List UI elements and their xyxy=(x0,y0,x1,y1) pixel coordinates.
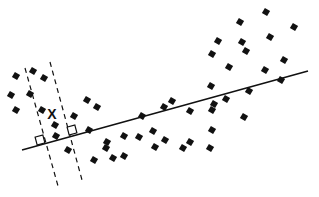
data-point xyxy=(236,18,244,26)
data-point xyxy=(151,143,159,151)
data-point xyxy=(93,103,101,111)
data-point xyxy=(161,136,169,144)
data-point xyxy=(186,138,194,146)
data-point xyxy=(7,91,15,99)
data-point xyxy=(207,82,215,90)
data-point xyxy=(64,146,72,154)
data-point xyxy=(262,8,270,16)
data-point xyxy=(120,152,128,160)
data-point xyxy=(40,74,48,82)
data-point xyxy=(238,38,246,46)
data-point xyxy=(208,50,216,58)
data-point xyxy=(240,113,248,121)
data-point xyxy=(83,96,91,104)
data-point xyxy=(70,112,78,120)
data-point xyxy=(261,66,269,74)
data-point xyxy=(29,67,37,75)
query-point-x-marker: X xyxy=(47,106,57,122)
data-point xyxy=(149,127,157,135)
data-point xyxy=(12,106,20,114)
data-point xyxy=(208,126,216,134)
data-point xyxy=(38,106,46,114)
data-point xyxy=(51,121,59,129)
right-angle-marker-left xyxy=(35,135,45,145)
data-point xyxy=(90,156,98,164)
data-point xyxy=(135,133,143,141)
data-point xyxy=(214,37,222,45)
data-point xyxy=(120,132,128,140)
regression-projection-diagram: X xyxy=(0,0,319,197)
data-point xyxy=(206,144,214,152)
data-point xyxy=(186,107,194,115)
data-point xyxy=(52,132,60,140)
data-point xyxy=(280,56,288,64)
data-point xyxy=(12,72,20,80)
data-point xyxy=(242,47,250,55)
data-point xyxy=(290,23,298,31)
data-point xyxy=(179,144,187,152)
data-point xyxy=(225,63,233,71)
data-point xyxy=(266,33,274,41)
data-point xyxy=(109,154,117,162)
data-point xyxy=(102,144,110,152)
right-angle-marker-right xyxy=(67,125,77,135)
data-point xyxy=(222,95,230,103)
data-point xyxy=(168,97,176,105)
data-point xyxy=(103,138,111,146)
